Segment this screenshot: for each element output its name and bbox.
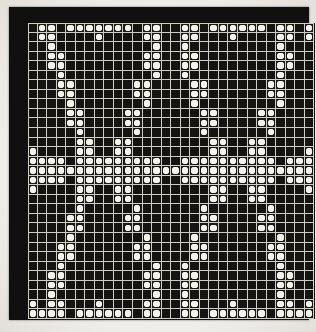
- grid-dot: [306, 148, 312, 154]
- grid-cell: [104, 300, 114, 310]
- grid-cell: [267, 61, 277, 71]
- grid-cell: [133, 309, 143, 319]
- grid-cell: [228, 42, 238, 52]
- grid-cell: [257, 138, 267, 148]
- grid-cell: [238, 52, 248, 62]
- grid-dot: [287, 177, 293, 183]
- grid-cell: [248, 195, 258, 205]
- grid-cell: [238, 23, 248, 33]
- grid-dot: [191, 100, 197, 106]
- grid-cell: [95, 147, 105, 157]
- grid-cell: [190, 118, 200, 128]
- grid-cell: [114, 61, 124, 71]
- grid-cell: [248, 223, 258, 233]
- grid-cell: [28, 185, 38, 195]
- grid-cell: [85, 185, 95, 195]
- grid-dot: [77, 310, 83, 316]
- grid-cell: [228, 166, 238, 176]
- grid-cell: [209, 290, 219, 300]
- grid-dot: [182, 310, 188, 316]
- grid-cell: [228, 80, 238, 90]
- grid-cell: [57, 33, 67, 43]
- grid-cell: [76, 223, 86, 233]
- grid-cell: [143, 109, 153, 119]
- grid-cell: [190, 90, 200, 100]
- grid-cell: [104, 243, 114, 253]
- grid-dot: [77, 110, 83, 116]
- grid-cell: [295, 300, 305, 310]
- grid-cell: [181, 223, 191, 233]
- grid-cell: [57, 80, 67, 90]
- grid-cell: [238, 147, 248, 157]
- grid-dot: [191, 167, 197, 173]
- grid-cell: [152, 52, 162, 62]
- grid-cell: [133, 176, 143, 186]
- grid-cell: [295, 118, 305, 128]
- grid-dot: [115, 177, 121, 183]
- grid-cell: [143, 262, 153, 272]
- grid-cell: [171, 233, 181, 243]
- grid-cell: [257, 128, 267, 138]
- grid-dot: [30, 177, 36, 183]
- grid-cell: [238, 166, 248, 176]
- grid-cell: [171, 23, 181, 33]
- grid-cell: [267, 223, 277, 233]
- grid-cell: [171, 204, 181, 214]
- grid-cell: [123, 252, 133, 262]
- grid-cell: [200, 281, 210, 291]
- grid-cell: [85, 99, 95, 109]
- grid-cell: [47, 118, 57, 128]
- grid-cell: [152, 99, 162, 109]
- grid-cell: [276, 118, 286, 128]
- grid-cell: [57, 195, 67, 205]
- grid-cell: [85, 33, 95, 43]
- grid-cell: [238, 109, 248, 119]
- grid-cell: [209, 42, 219, 52]
- grid-cell: [219, 223, 229, 233]
- grid-cell: [85, 42, 95, 52]
- grid-cell: [162, 271, 172, 281]
- grid-cell: [286, 176, 296, 186]
- grid-cell: [286, 233, 296, 243]
- grid-cell: [228, 109, 238, 119]
- grid-cell: [219, 128, 229, 138]
- grid-cell: [66, 281, 76, 291]
- grid-cell: [66, 118, 76, 128]
- grid-cell: [286, 71, 296, 81]
- grid-cell: [181, 290, 191, 300]
- grid-cell: [286, 166, 296, 176]
- grid-cell: [152, 118, 162, 128]
- grid-cell: [123, 309, 133, 319]
- grid-cell: [276, 52, 286, 62]
- grid-cell: [190, 61, 200, 71]
- grid-cell: [257, 243, 267, 253]
- grid-cell: [123, 128, 133, 138]
- grid-cell: [28, 138, 38, 148]
- grid-cell: [228, 223, 238, 233]
- grid-cell: [85, 223, 95, 233]
- grid-cell: [152, 185, 162, 195]
- grid-dot: [86, 25, 92, 31]
- grid-cell: [38, 61, 48, 71]
- grid-cell: [181, 214, 191, 224]
- grid-cell: [47, 90, 57, 100]
- plate-frame: [9, 7, 309, 320]
- grid-cell: [286, 128, 296, 138]
- grid-cell: [200, 300, 210, 310]
- grid-cell: [143, 252, 153, 262]
- grid-cell: [305, 214, 315, 224]
- grid-cell: [123, 185, 133, 195]
- grid-dot: [86, 196, 92, 202]
- grid-dot: [182, 272, 188, 278]
- grid-cell: [104, 157, 114, 167]
- grid-cell: [209, 61, 219, 71]
- grid-cell: [209, 233, 219, 243]
- grid-cell: [57, 138, 67, 148]
- grid-dot: [153, 310, 159, 316]
- grid-cell: [104, 185, 114, 195]
- grid-dot: [67, 25, 73, 31]
- grid-cell: [57, 52, 67, 62]
- grid-cell: [248, 185, 258, 195]
- grid-cell: [209, 118, 219, 128]
- grid-cell: [104, 271, 114, 281]
